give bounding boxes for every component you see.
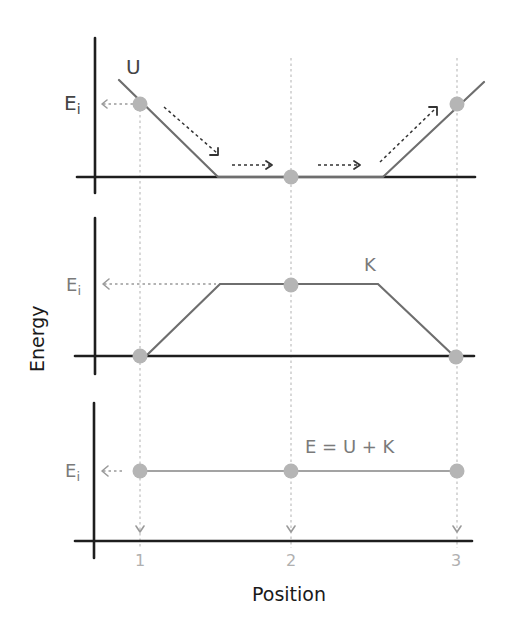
state-dot-position-3 — [450, 464, 465, 479]
x-tick-3: 3 — [451, 551, 461, 570]
state-dot-position-2 — [284, 464, 299, 479]
x-tick-1: 1 — [135, 551, 145, 570]
energy-diagram: U Ei K Ei Energy E — [0, 0, 506, 636]
state-dot-position-3 — [450, 97, 465, 112]
state-dot-position-3 — [449, 350, 464, 365]
ei-label-total: Ei — [65, 460, 80, 484]
panel-total-energy: E = U + K Ei — [65, 403, 472, 558]
state-dot-position-1 — [133, 464, 148, 479]
state-dot-position-1 — [133, 349, 148, 364]
ei-label-kinetic: Ei — [66, 274, 81, 298]
curve-label-total: E = U + K — [305, 436, 396, 457]
state-dot-position-2 — [284, 170, 299, 185]
state-dot-position-2 — [284, 278, 299, 293]
panel-kinetic-energy: K Ei Energy — [26, 218, 474, 374]
motion-arrowhead-down-slope — [210, 148, 218, 155]
potential-energy-curve — [119, 80, 484, 177]
panel-potential-energy: U Ei — [64, 38, 484, 193]
x-tick-2: 2 — [286, 551, 296, 570]
curve-label-k: K — [364, 254, 377, 275]
ei-label-potential: Ei — [64, 91, 81, 117]
motion-arrow-down-slope — [164, 107, 217, 153]
x-axis-ticks: 1 2 3 — [135, 551, 461, 570]
state-dot-position-1 — [133, 97, 148, 112]
kinetic-energy-curve — [146, 284, 454, 356]
x-axis-label: Position — [252, 583, 326, 605]
curve-label-u: U — [126, 55, 141, 79]
y-axis-label: Energy — [26, 305, 48, 372]
